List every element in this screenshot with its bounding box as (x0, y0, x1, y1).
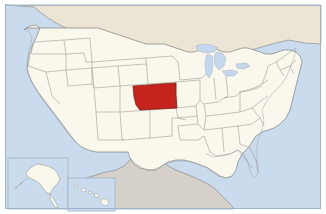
hawaii-inset-frame (68, 178, 115, 211)
alaska-inset (8, 158, 68, 209)
highlighted-state-kansas (133, 83, 177, 110)
map-canvas (0, 0, 326, 214)
hawaii-inset (68, 178, 115, 211)
us-map-image (0, 0, 326, 214)
